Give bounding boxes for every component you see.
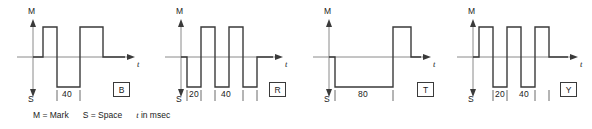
waveform-panel-y: M S t 20 40 Y [440,0,592,104]
axis-label-time-t: t [433,60,436,69]
duration-label-r-1: 40 [221,90,231,99]
figure-caption: M = MarkS = Spacet in msec [33,110,170,120]
mark-arrow-t [326,19,332,27]
time-arrow-b [127,54,135,60]
duration-label-t-0: 80 [358,90,368,99]
code-box-b: B [113,82,130,97]
mark-arrow-r [178,19,184,27]
axis-label-space-b: S [28,95,34,104]
signal-timing-figure: M S t 40 B M S t 20 40 R [0,0,592,129]
axis-label-mark-y: M [468,7,475,16]
axis-label-mark-t: M [324,7,331,16]
waveform-panel-t: M S t 80 T [296,0,444,104]
caption-mark-legend: M = Mark [33,110,69,120]
duration-label-y-1: 40 [519,90,529,99]
axis-label-space-y: S [468,95,474,104]
mark-arrow-b [30,19,36,27]
axis-label-mark-r: M [176,7,183,16]
caption-units: in msec [141,110,170,120]
waveform-panel-b: M S t 40 B [0,0,148,104]
duration-label-r-0: 20 [189,90,199,99]
waveform-panel-r: M S t 20 40 R [148,0,296,104]
time-arrow-t [423,54,431,60]
axis-label-time-b: t [137,60,140,69]
mark-arrow-y [470,19,476,27]
duration-label-b-0: 40 [62,90,72,99]
caption-space-legend: S = Space [83,110,122,120]
axis-label-time-r: t [285,60,288,69]
time-arrow-r [275,54,283,60]
axis-label-space-r: S [176,95,182,104]
axis-label-space-t: S [324,95,330,104]
time-arrow-y [570,54,578,60]
caption-time-symbol: t [136,110,138,120]
axis-label-time-y: t [580,60,583,69]
code-box-r: R [269,82,286,97]
code-box-t: T [417,82,434,97]
axis-label-mark-b: M [28,7,35,16]
code-box-y: Y [560,82,577,97]
duration-label-y-0: 20 [495,90,505,99]
